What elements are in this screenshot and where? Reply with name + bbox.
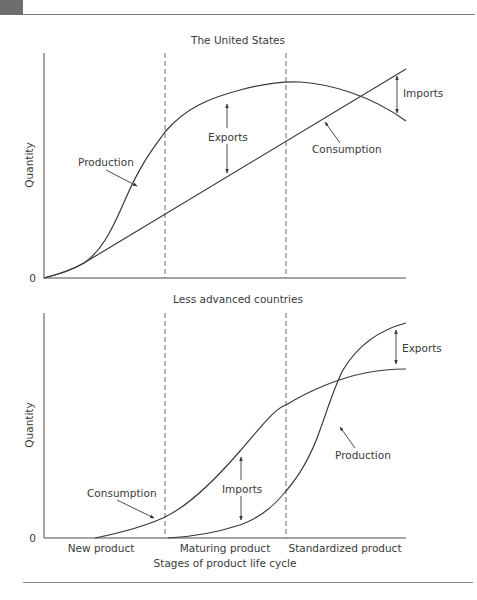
stage-label-standardized: Standardized product — [288, 542, 401, 554]
x-axis-title: Stages of product life cycle — [154, 557, 297, 569]
lac-production-curve — [168, 323, 406, 538]
lac-origin-label: 0 — [29, 532, 36, 544]
us-production-arrow — [106, 170, 137, 186]
stage-label-maturing: Maturing product — [180, 542, 271, 554]
lac-consumption-label: Consumption — [87, 487, 157, 499]
stage-label-new: New product — [68, 542, 135, 554]
us-chart-title: The United States — [190, 34, 285, 46]
lac-chart: Less advanced countries 0 Quantity Consu… — [23, 293, 442, 544]
lac-exports-label: Exports — [402, 342, 442, 354]
x-axis-labels: New product Maturing product Standardize… — [68, 542, 402, 569]
lac-production-label: Production — [335, 449, 391, 461]
lac-y-axis-label: Quantity — [23, 402, 35, 447]
us-y-axis-label: Quantity — [23, 142, 35, 187]
lac-imports-label: Imports — [222, 483, 262, 495]
us-production-curve — [44, 82, 406, 278]
product-life-cycle-figure: The United States 0 Quantity Production … — [0, 0, 477, 600]
us-consumption-label: Consumption — [312, 143, 382, 155]
us-imports-label: Imports — [403, 87, 443, 99]
us-exports-label: Exports — [208, 131, 248, 143]
us-consumption-arrow — [325, 122, 340, 143]
us-production-label: Production — [78, 156, 134, 168]
lac-chart-title: Less advanced countries — [173, 293, 303, 305]
us-consumption-line — [44, 69, 406, 278]
us-chart: The United States 0 Quantity Production … — [23, 34, 443, 284]
lac-production-arrow — [340, 427, 355, 448]
lac-consumption-arrow — [117, 500, 154, 518]
us-origin-label: 0 — [29, 272, 36, 284]
bottom-rule — [23, 582, 473, 583]
